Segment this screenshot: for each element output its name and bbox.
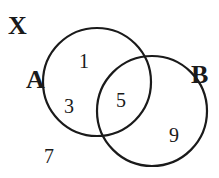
universe-label: X bbox=[8, 11, 27, 40]
set-a-label: A bbox=[26, 65, 45, 94]
region-a-only-top: 1 bbox=[79, 50, 89, 72]
region-b-only: 9 bbox=[169, 124, 179, 146]
region-a-and-b: 5 bbox=[116, 89, 126, 111]
venn-diagram: X A B 1 3 5 9 7 bbox=[0, 0, 219, 178]
region-outside: 7 bbox=[44, 145, 54, 167]
set-b-label: B bbox=[191, 60, 208, 89]
region-a-only-bottom: 3 bbox=[64, 95, 74, 117]
